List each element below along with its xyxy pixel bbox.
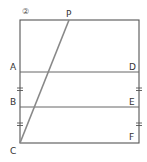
geometry-figure: ② P A D B E C F	[0, 0, 147, 162]
segment-CP	[20, 20, 69, 143]
point-label-B: B	[10, 97, 16, 107]
point-label-A: A	[10, 62, 17, 72]
outer-rectangle	[20, 20, 139, 143]
point-label-D: D	[129, 62, 136, 72]
point-label-F: F	[129, 132, 134, 142]
point-label-C: C	[10, 146, 16, 156]
figure-number-label: ②	[22, 7, 29, 16]
point-label-P: P	[66, 9, 72, 19]
point-label-E: E	[129, 97, 135, 107]
